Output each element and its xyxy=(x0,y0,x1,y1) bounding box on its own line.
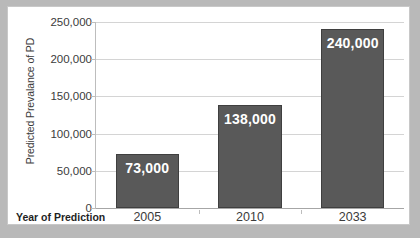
y-axis-tickmark xyxy=(91,22,96,23)
bar[interactable]: 138,000 xyxy=(218,105,282,208)
chart-frame: Predicted Prevalance of PD 050,000100,00… xyxy=(7,6,410,225)
x-axis-tick-label: 2005 xyxy=(96,210,199,224)
plot-area: 73,000138,000240,000 xyxy=(96,22,404,208)
bar-slot: 240,000 xyxy=(321,22,385,208)
x-axis-title: Year of Prediction xyxy=(16,211,105,223)
axis-baseline xyxy=(96,208,404,209)
x-axis-tick-label: 2010 xyxy=(199,210,302,224)
x-axis-tick-label: 2033 xyxy=(301,210,404,224)
y-axis-tick-label: 200,000 xyxy=(30,53,92,65)
y-axis-tick-labels: 050,000100,000150,000200,000250,000 xyxy=(30,22,92,208)
bar-series: 73,000138,000240,000 xyxy=(96,22,404,208)
bar-data-label: 240,000 xyxy=(322,35,384,51)
y-axis-tickmark xyxy=(91,59,96,60)
y-axis-tick-label: 100,000 xyxy=(30,128,92,140)
bar[interactable]: 73,000 xyxy=(116,154,180,208)
x-axis-tickmark xyxy=(199,210,200,214)
x-axis-tick-labels: 200520102033 xyxy=(96,210,404,228)
bar-data-label: 138,000 xyxy=(219,111,281,127)
y-axis-tick-label: 50,000 xyxy=(30,165,92,177)
y-axis-tickmark xyxy=(91,208,96,209)
y-axis-tick-label: 250,000 xyxy=(30,16,92,28)
y-axis-tickmark xyxy=(91,96,96,97)
bar-slot: 138,000 xyxy=(218,22,282,208)
bar[interactable]: 240,000 xyxy=(321,29,385,208)
bar-slot: 73,000 xyxy=(116,22,180,208)
x-axis-tickmark xyxy=(301,210,302,214)
y-axis-tickmark xyxy=(91,134,96,135)
bar-data-label: 73,000 xyxy=(117,160,179,176)
y-axis-tick-label: 150,000 xyxy=(30,90,92,102)
y-axis-tickmark xyxy=(91,171,96,172)
